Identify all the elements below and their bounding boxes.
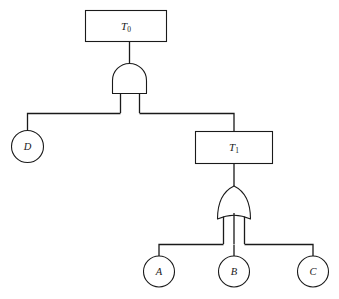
fault-tree-canvas: T0 D T1 <box>0 0 339 299</box>
basic-event-c[interactable]: C <box>298 256 329 287</box>
connector-or-gate-to-event-c <box>245 245 314 257</box>
basic-event-a[interactable]: A <box>144 256 175 287</box>
basic-event-d[interactable]: D <box>12 131 44 163</box>
connector-and-gate-to-intermediate-event <box>140 114 235 132</box>
intermediate-event-node[interactable]: T1 <box>196 132 273 164</box>
and-gate-symbol[interactable] <box>113 64 147 94</box>
top-event-node[interactable]: T0 <box>86 11 167 42</box>
connector-or-gate-to-event-a <box>159 245 224 257</box>
basic-event-b-label: B <box>231 266 238 277</box>
connector-and-gate-to-event-d <box>28 114 121 131</box>
fault-tree-diagram: T0 D T1 <box>0 0 339 299</box>
basic-event-c-label: C <box>309 266 317 277</box>
basic-event-a-label: A <box>155 266 163 277</box>
and-gate[interactable] <box>113 64 147 113</box>
basic-event-d-label: D <box>23 141 32 152</box>
basic-event-b[interactable]: B <box>219 256 250 287</box>
or-gate[interactable] <box>218 186 251 244</box>
